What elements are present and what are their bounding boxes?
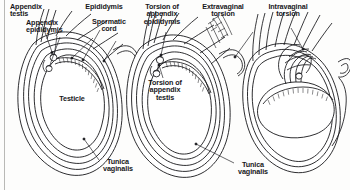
testicle-body-right (257, 82, 334, 138)
cord-twist-hatching (206, 13, 232, 48)
panel-intravaginal-torsion (243, 11, 350, 173)
testicular-torsion-figure: Appendix testis Appendix epididymis Epid… (0, 0, 350, 190)
panel-normal-anatomy (18, 9, 139, 175)
panel-appendage-torsion (127, 11, 253, 177)
anatomy-illustration (0, 0, 350, 190)
